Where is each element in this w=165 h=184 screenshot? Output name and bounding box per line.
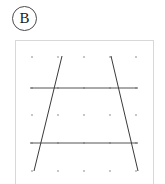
panel-label-badge: B <box>12 6 42 34</box>
slant-line-left <box>34 56 62 171</box>
diagram-frame <box>15 40 154 184</box>
grid-dot <box>57 170 59 172</box>
grid-dot <box>57 56 59 58</box>
circle-badge-icon: B <box>12 6 37 31</box>
grid-dot <box>31 170 33 172</box>
grid-dot <box>109 170 111 172</box>
grid-dot <box>135 56 137 58</box>
dot-grid-layer <box>31 56 137 172</box>
figure-root: B <box>0 0 165 184</box>
panel-label-text: B <box>19 11 29 26</box>
grid-dot <box>31 114 33 116</box>
grid-dot <box>135 170 137 172</box>
grid-dot <box>83 56 85 58</box>
grid-dot <box>135 114 137 116</box>
grid-dot <box>31 56 33 58</box>
grid-dot <box>57 114 59 116</box>
grid-dot <box>83 114 85 116</box>
slant-line-right <box>111 56 138 171</box>
grid-dot <box>83 170 85 172</box>
line-layer <box>30 56 138 171</box>
grid-dot <box>109 114 111 116</box>
diagram-canvas <box>16 41 153 184</box>
